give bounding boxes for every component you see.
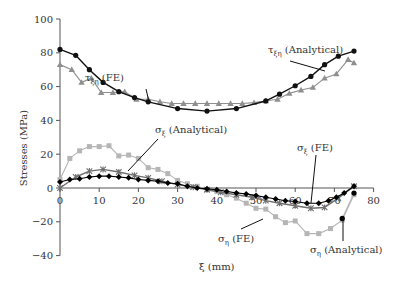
leader-sigma-xi-fe — [311, 155, 316, 203]
square-marker — [107, 143, 112, 148]
circle-marker — [116, 89, 121, 94]
triangle-marker — [345, 56, 351, 62]
label-sigma-xi-fe: σξ (FE) — [297, 142, 333, 156]
diamond-marker — [67, 177, 73, 183]
leader-tau-analytical — [290, 61, 325, 71]
circle-marker — [175, 106, 180, 111]
circle-marker — [308, 74, 313, 79]
diamond-marker — [263, 194, 269, 200]
diamond-marker — [304, 200, 310, 206]
y-tick-label: 20 — [40, 149, 53, 160]
y-tick-label: 40 — [40, 115, 53, 126]
y-tick-label: 60 — [40, 81, 53, 92]
circle-marker — [263, 98, 268, 103]
circle-marker — [293, 83, 298, 88]
y-tick-label: −40 — [32, 250, 53, 261]
y-tick-label: 0 — [47, 183, 53, 194]
x-tick-label: 30 — [171, 195, 184, 206]
diamond-marker — [116, 174, 122, 180]
label-sigma-eta-fe: ση (FE) — [218, 233, 254, 247]
square-marker — [116, 153, 121, 158]
square-marker — [67, 156, 72, 161]
diamond-marker — [106, 173, 112, 179]
leader-sigma-xi-analytical — [128, 139, 158, 171]
square-marker — [316, 231, 321, 236]
triangle-marker — [351, 60, 357, 66]
y-axis-label: Stresses (MPa) — [18, 110, 29, 186]
circle-marker — [351, 49, 356, 54]
square-marker — [263, 207, 268, 212]
square-marker — [328, 226, 333, 231]
circle-marker — [204, 109, 209, 114]
circle-marker — [132, 95, 137, 100]
square-marker — [97, 144, 102, 149]
circle-marker — [322, 62, 327, 67]
x-tick-label: 40 — [210, 195, 223, 206]
square-marker — [126, 153, 131, 158]
square-marker — [146, 165, 151, 170]
label-tau-analytical: τξη (Analytical) — [268, 44, 343, 58]
diamond-marker — [165, 180, 171, 186]
circle-marker — [234, 106, 239, 111]
y-tick-label: 100 — [34, 14, 53, 25]
diamond-marker — [86, 174, 92, 180]
stress-chart: −40−2002040608010001020304050607080Stres… — [0, 0, 399, 285]
square-marker — [273, 214, 278, 219]
label-sigma-eta-analytical: ση (Analytical) — [310, 244, 383, 258]
y-tick-label: −20 — [32, 216, 53, 227]
triangle-marker — [57, 61, 63, 67]
square-marker — [165, 171, 170, 176]
square-marker — [254, 206, 259, 211]
leader-sigma-eta-fe — [241, 219, 263, 229]
circle-marker — [340, 216, 345, 221]
series-line — [342, 193, 354, 218]
x-tick-label: 20 — [132, 195, 145, 206]
y-tick-label: 80 — [40, 47, 53, 58]
diamond-marker — [282, 198, 288, 204]
diamond-marker — [316, 200, 322, 206]
square-marker — [293, 218, 298, 223]
x-axis-label: ξ (mm) — [199, 261, 235, 272]
x-tick-label: 80 — [367, 195, 380, 206]
x-tick-label: 10 — [93, 195, 106, 206]
label-sigma-xi-analytical: σξ (Analytical) — [155, 124, 227, 138]
square-marker — [283, 220, 288, 225]
circle-marker — [277, 92, 282, 97]
circle-marker — [351, 190, 356, 195]
circle-marker — [57, 47, 62, 52]
chart-canvas: −40−2002040608010001020304050607080Stres… — [0, 0, 399, 285]
diamond-marker — [126, 175, 132, 181]
x-tick-label: 0 — [57, 195, 63, 206]
square-marker — [156, 167, 161, 172]
circle-marker — [73, 53, 78, 58]
square-marker — [87, 144, 92, 149]
square-marker — [304, 231, 309, 236]
square-marker — [244, 201, 249, 206]
square-marker — [77, 148, 82, 153]
diamond-marker — [96, 173, 102, 179]
